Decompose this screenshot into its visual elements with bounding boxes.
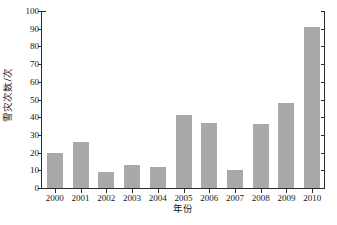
bar <box>304 27 320 188</box>
y-tick-label: 60 <box>30 77 39 86</box>
y-tick-right <box>321 82 325 83</box>
y-tick-right <box>321 100 325 101</box>
y-tick-label: 20 <box>30 148 39 157</box>
x-axis-title: 年份 <box>41 201 324 215</box>
bar <box>278 103 294 188</box>
y-axis-title: 雪灾次数/次 <box>0 0 14 190</box>
y-tick-right <box>321 117 325 118</box>
bar <box>98 172 114 188</box>
y-tick-right <box>321 64 325 65</box>
bar <box>150 167 166 188</box>
bar <box>47 153 63 188</box>
bar <box>227 170 243 188</box>
y-tick-right <box>321 188 325 189</box>
y-tick-right <box>321 170 325 171</box>
bar <box>201 123 217 188</box>
y-tick-label: 80 <box>30 42 39 51</box>
bar-chart: 雪灾次数/次 0102030405060708090100 2000200120… <box>0 0 337 225</box>
y-tick-right <box>321 46 325 47</box>
y-tick-label: 100 <box>26 7 40 16</box>
y-tick-label: 0 <box>35 184 40 193</box>
bar <box>253 124 269 188</box>
y-tick-label: 70 <box>30 60 39 69</box>
y-axis-title-text: 雪灾次数/次 <box>0 68 14 121</box>
y-tick-right <box>321 11 325 12</box>
y-tick-label: 90 <box>30 24 39 33</box>
bar <box>124 165 140 188</box>
y-tick-right <box>321 29 325 30</box>
y-tick-label: 40 <box>30 113 39 122</box>
bar <box>176 115 192 188</box>
y-tick-label: 10 <box>30 166 39 175</box>
bar <box>73 142 89 188</box>
y-tick-label: 30 <box>30 130 39 139</box>
plot-area: 0102030405060708090100 20002001200220032… <box>41 11 325 189</box>
y-tick-right <box>321 153 325 154</box>
frame-corner-top-left <box>42 11 46 12</box>
y-tick-label: 50 <box>30 95 39 104</box>
y-tick-right <box>321 135 325 136</box>
